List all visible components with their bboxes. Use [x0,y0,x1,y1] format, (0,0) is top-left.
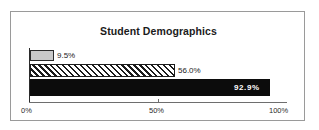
chart-title: Student Demographics [11,25,306,37]
x-axis-label-0: 0% [21,106,32,115]
x-axis-tick-50 [158,99,159,103]
plot-area: 0% 50% 100% 9.5% 56.0% 92.9% [29,48,287,104]
bar-label-series-3: 92.9% [234,83,260,92]
x-axis-label-50: 50% [149,106,164,115]
bar-label-series-2: 56.0% [178,66,201,75]
bar-series-2 [30,64,175,77]
x-axis-label-100: 100% [269,106,288,115]
bar-label-series-1: 9.5% [57,51,75,60]
bar-series-1 [30,50,54,61]
chart-frame: Student Demographics 0% 50% 100% 9.5% 56… [10,11,305,121]
